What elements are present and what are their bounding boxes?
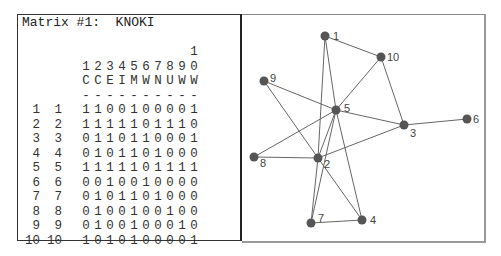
matrix-title: Matrix #1: KNOKI <box>22 16 155 30</box>
node-circle-icon[interactable] <box>332 106 341 115</box>
matrix-cell: 1 <box>116 190 128 205</box>
matrix-cell: 0 <box>80 190 92 205</box>
matrix-cell: 0 <box>164 147 176 162</box>
row-label: 8 <box>44 205 62 220</box>
matrix-cell: 1 <box>128 190 140 205</box>
node-circle-icon[interactable] <box>377 53 386 62</box>
matrix-cell: 1 <box>128 118 140 133</box>
column-divider: - <box>128 89 140 104</box>
node-label: 4 <box>370 214 376 226</box>
matrix-cell: 0 <box>176 132 188 147</box>
row-label: 3 <box>44 132 62 147</box>
row-id: 9 <box>22 219 40 234</box>
edge-3-6 <box>404 119 467 125</box>
graph-node-8[interactable]: 8 <box>250 153 267 170</box>
node-circle-icon[interactable] <box>358 216 367 225</box>
matrix-panel: Matrix #1: KNOKI 1C-2C-3E-4I-5M-6W-7N-8U… <box>17 14 242 241</box>
node-circle-icon[interactable] <box>314 154 323 163</box>
edge-5-9 <box>264 81 336 110</box>
matrix-cell: 0 <box>140 205 152 220</box>
matrix-cell: 1 <box>128 234 140 249</box>
matrix-cell: 0 <box>152 219 164 234</box>
graph-node-10[interactable]: 10 <box>377 51 400 63</box>
row-label: 4 <box>44 147 62 162</box>
row-label: 7 <box>44 190 62 205</box>
matrix-cell: 1 <box>152 190 164 205</box>
column-divider: - <box>92 89 104 104</box>
matrix-cell: 1 <box>80 234 92 249</box>
column-code: W <box>176 74 188 89</box>
matrix-cell: 0 <box>140 234 152 249</box>
column-index: 8 <box>164 60 176 75</box>
node-label: 1 <box>333 30 339 42</box>
matrix-cell: 0 <box>104 205 116 220</box>
matrix-cell: 0 <box>116 205 128 220</box>
row-label: 9 <box>44 219 62 234</box>
matrix-cell: 1 <box>152 118 164 133</box>
matrix-cell: 0 <box>104 147 116 162</box>
column-index-top: 1 <box>188 45 200 60</box>
column-index: 6 <box>140 60 152 75</box>
column-index: 0 <box>188 60 200 75</box>
graph-node-9[interactable]: 9 <box>260 72 277 86</box>
node-label: 10 <box>387 51 399 63</box>
node-circle-icon[interactable] <box>250 153 259 162</box>
column-code: N <box>152 74 164 89</box>
edge-1-5 <box>325 36 336 110</box>
row-id: 2 <box>22 118 40 133</box>
matrix-cell: 1 <box>92 190 104 205</box>
graph-nodes: 12345678910 <box>250 30 480 228</box>
graph-node-3[interactable]: 3 <box>400 121 417 140</box>
matrix-cell: 1 <box>80 161 92 176</box>
edge-5-8 <box>254 110 336 157</box>
column-code: W <box>140 74 152 89</box>
matrix-cell: 1 <box>92 132 104 147</box>
node-circle-icon[interactable] <box>463 115 472 124</box>
row-label: 10 <box>44 234 62 249</box>
edge-4-5 <box>336 110 362 220</box>
row-label: 2 <box>44 118 62 133</box>
column-divider: - <box>164 89 176 104</box>
column-code: W <box>188 74 200 89</box>
column-code: I <box>116 74 128 89</box>
graph-node-2[interactable]: 2 <box>314 154 331 171</box>
edge-2-7 <box>311 158 318 223</box>
node-circle-icon[interactable] <box>321 32 330 41</box>
matrix-cell: 1 <box>152 147 164 162</box>
matrix-cell: 1 <box>152 161 164 176</box>
matrix-cell: 0 <box>116 219 128 234</box>
row-id: 8 <box>22 205 40 220</box>
row-id: 10 <box>22 234 40 249</box>
graph-node-7[interactable]: 7 <box>307 212 325 228</box>
column-index: 1 <box>80 60 92 75</box>
matrix-cell: 0 <box>128 176 140 191</box>
node-circle-icon[interactable] <box>260 77 269 86</box>
matrix-cell: 1 <box>80 118 92 133</box>
matrix-cell: 1 <box>188 234 200 249</box>
matrix-cell: 1 <box>92 219 104 234</box>
node-circle-icon[interactable] <box>307 219 316 228</box>
matrix-cell: 1 <box>140 176 152 191</box>
matrix-cell: 0 <box>92 234 104 249</box>
matrix-cell: 0 <box>176 205 188 220</box>
matrix-cell: 1 <box>164 161 176 176</box>
matrix-cell: 1 <box>176 219 188 234</box>
column-index: 7 <box>152 60 164 75</box>
edge-3-10 <box>381 57 404 125</box>
matrix-cell: 1 <box>104 176 116 191</box>
column-code: C <box>92 74 104 89</box>
graph-node-6[interactable]: 6 <box>463 113 480 125</box>
matrix-cell: 0 <box>176 234 188 249</box>
matrix-cell: 0 <box>164 132 176 147</box>
network-graph-panel: 12345678910 <box>242 14 486 243</box>
graph-node-1[interactable]: 1 <box>321 30 340 42</box>
matrix-cell: 0 <box>152 176 164 191</box>
matrix-cell: 0 <box>164 219 176 234</box>
node-circle-icon[interactable] <box>400 121 409 130</box>
row-label: 6 <box>44 176 62 191</box>
graph-node-4[interactable]: 4 <box>358 214 377 226</box>
matrix-cell: 1 <box>176 161 188 176</box>
matrix-cell: 0 <box>104 190 116 205</box>
matrix-cell: 1 <box>128 103 140 118</box>
node-label: 5 <box>344 102 350 114</box>
